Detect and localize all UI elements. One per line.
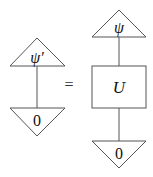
- right-diagram: ψ U 0: [92, 10, 146, 168]
- unitary-label: U: [113, 78, 127, 97]
- left-zero-label: 0: [33, 112, 41, 129]
- left-diagram: ψ′ 0: [10, 38, 65, 136]
- right-zero-label: 0: [115, 145, 123, 162]
- psi-prime-label: ψ′: [30, 49, 44, 67]
- tensor-diagram: ψ′ 0 = ψ U 0: [0, 0, 153, 177]
- equals-sign: =: [64, 76, 73, 93]
- psi-label: ψ: [114, 19, 125, 37]
